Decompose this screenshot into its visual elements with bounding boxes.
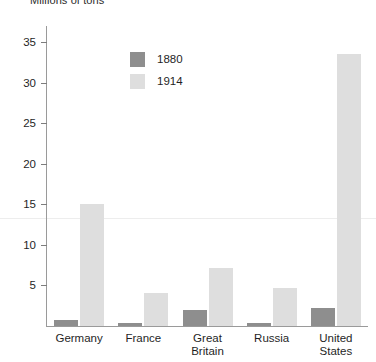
y-axis-tick bbox=[41, 83, 47, 84]
y-axis-tick bbox=[41, 164, 47, 165]
scan-artifact-line bbox=[0, 218, 376, 219]
chart-legend: 1880 1914 bbox=[130, 48, 183, 92]
x-axis-label-united-states: UnitedStates bbox=[296, 332, 376, 358]
y-axis-tick-label: 5 bbox=[0, 279, 36, 291]
bar-1914-germany bbox=[80, 204, 104, 326]
y-axis-tick-label: 35 bbox=[0, 36, 36, 48]
bar-1914-united-states bbox=[337, 54, 361, 326]
y-axis-tick bbox=[41, 204, 47, 205]
bar-1914-russia bbox=[273, 288, 297, 326]
x-axis-label-line: United bbox=[296, 332, 376, 345]
y-axis-tick-label: 30 bbox=[0, 77, 36, 89]
y-axis-tick-label: 15 bbox=[0, 198, 36, 210]
x-axis-label-line: States bbox=[296, 345, 376, 358]
y-axis-line bbox=[46, 26, 47, 327]
bar-1914-france bbox=[144, 293, 168, 326]
legend-label-1880: 1880 bbox=[157, 53, 183, 65]
bar-1880-germany bbox=[54, 320, 78, 326]
y-axis-tick bbox=[41, 245, 47, 246]
bar-chart: Millions of tons 5101520253035 GermanyFr… bbox=[0, 0, 376, 362]
y-axis-tick-label: 25 bbox=[0, 117, 36, 129]
bar-1880-great-britain bbox=[183, 310, 207, 326]
y-axis-tick-label: 10 bbox=[0, 239, 36, 251]
y-axis-tick bbox=[41, 123, 47, 124]
legend-item-1880: 1880 bbox=[130, 48, 183, 70]
bar-1880-france bbox=[118, 323, 142, 326]
y-axis-tick-label: 20 bbox=[0, 158, 36, 170]
chart-title: Millions of tons bbox=[30, 0, 104, 6]
x-axis-label-line: Britain bbox=[168, 345, 248, 358]
bar-1914-great-britain bbox=[209, 268, 233, 326]
y-axis-tick bbox=[41, 285, 47, 286]
bar-1880-united-states bbox=[311, 308, 335, 326]
legend-swatch-1880-icon bbox=[130, 52, 145, 67]
legend-item-1914: 1914 bbox=[130, 70, 183, 92]
y-axis-tick bbox=[41, 42, 47, 43]
legend-swatch-1914-icon bbox=[130, 74, 145, 89]
bar-1880-russia bbox=[247, 323, 271, 326]
x-axis-line bbox=[46, 326, 368, 327]
legend-label-1914: 1914 bbox=[157, 75, 183, 87]
